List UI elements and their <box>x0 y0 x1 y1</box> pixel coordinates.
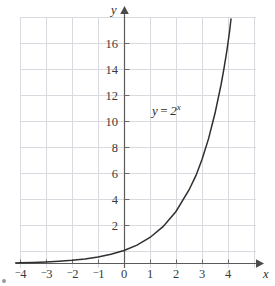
y-axis-ticks <box>125 44 130 226</box>
xtick-label: 2 <box>173 268 179 281</box>
equation-lhs: y <box>152 103 158 118</box>
x-axis-label: x <box>263 268 269 281</box>
xtick-label: –4 <box>15 268 26 281</box>
ytick-label: 8 <box>100 142 118 155</box>
ytick-label: 16 <box>100 38 118 51</box>
y-axis-label: y <box>111 4 117 17</box>
equation-exponent: x <box>177 102 181 112</box>
ytick-label: 6 <box>100 168 118 181</box>
curve-equation-label: y=2x <box>152 103 181 117</box>
exponential-function-graph: y x –4 –3 –2 –1 0 1 2 3 4 16 14 12 10 8 … <box>0 0 275 286</box>
ytick-label: 4 <box>100 194 118 207</box>
xtick-label: 0 <box>121 268 127 281</box>
xtick-label: 3 <box>199 268 205 281</box>
corner-dot-mark <box>2 279 6 283</box>
vertical-gridlines <box>21 18 255 268</box>
plot-area <box>0 0 275 286</box>
xtick-label: –1 <box>93 268 104 281</box>
horizontal-gridlines <box>20 18 256 252</box>
exponential-curve <box>16 19 231 263</box>
ytick-label: 10 <box>100 116 118 129</box>
y-axis <box>120 6 129 268</box>
xtick-label: –2 <box>67 268 78 281</box>
ytick-label: 14 <box>100 64 118 77</box>
ytick-label: 2 <box>100 220 118 233</box>
equation-equals: = <box>160 103 167 118</box>
xtick-label: 1 <box>147 268 153 281</box>
xtick-label: 4 <box>225 268 231 281</box>
xtick-label: –3 <box>41 268 52 281</box>
ytick-label: 12 <box>100 90 118 103</box>
